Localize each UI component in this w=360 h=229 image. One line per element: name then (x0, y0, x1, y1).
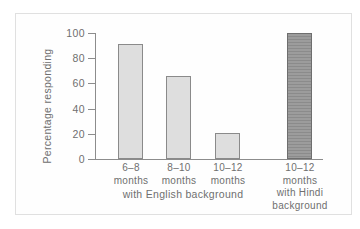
y-tick-60: 60 (50, 77, 95, 89)
category-label-line: months (188, 175, 268, 188)
bar-8-10-months (166, 76, 191, 159)
category-label-line: 10–12 (188, 162, 268, 175)
category-label-10-12-months: 10–12 months (188, 162, 268, 187)
y-tick-80: 80 (50, 52, 95, 64)
group-label-english-background: with English background (103, 188, 263, 200)
y-tick-label: 60 (73, 77, 85, 89)
y-tick-label: 40 (73, 103, 85, 115)
category-label-line: months (260, 175, 340, 188)
tick-mark (88, 58, 95, 59)
category-label-line: with Hindi (260, 187, 340, 200)
bar-6-8-months (118, 44, 143, 159)
bar-10-12-months-hindi (287, 33, 312, 159)
tick-mark (88, 109, 95, 110)
y-tick-40: 40 (50, 103, 95, 115)
y-tick-label: 100 (66, 27, 85, 39)
y-tick-20: 20 (50, 128, 95, 140)
y-tick-0: 0 (50, 153, 95, 165)
tick-mark (88, 83, 95, 84)
tick-mark (88, 134, 95, 135)
tick-mark (88, 159, 95, 160)
bar-chart: Percentage responding 100 80 60 40 20 0 (16, 14, 351, 214)
figure-frame: Percentage responding 100 80 60 40 20 0 (15, 13, 352, 215)
y-tick-100: 100 (50, 27, 95, 39)
tick-mark (88, 33, 95, 34)
y-axis (95, 33, 96, 160)
category-label-line: background (260, 200, 340, 213)
category-label-line: 10–12 (260, 162, 340, 175)
x-axis (95, 159, 323, 160)
y-tick-label: 80 (73, 52, 85, 64)
y-tick-label: 0 (79, 153, 85, 165)
y-tick-label: 20 (73, 128, 85, 140)
bar-10-12-months (215, 133, 240, 160)
category-label-10-12-months-hindi: 10–12 months with Hindi background (260, 162, 340, 212)
